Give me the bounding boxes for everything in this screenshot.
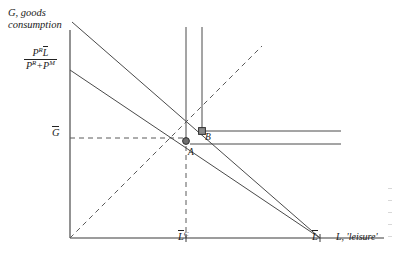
x-axis-tick-label-lc: LC xyxy=(178,231,189,243)
budget-line-outer xyxy=(72,22,320,238)
y-axis-fraction-label: PRL PR+PM xyxy=(24,47,57,72)
gbar-symbol: G xyxy=(52,127,60,139)
lbar-symbol: L xyxy=(312,231,318,243)
data-point-label-b: B xyxy=(205,132,211,143)
fraction: PRL PR+PM xyxy=(24,47,57,72)
diagonal-45-degree-line xyxy=(70,46,262,238)
lc-symbol: L xyxy=(178,231,184,243)
x-axis-tick-label-lbar: L xyxy=(312,231,318,243)
denominator-plus-sign: + xyxy=(36,60,43,71)
numerator-labor-bar: L xyxy=(43,47,49,59)
page-edge-marks xyxy=(383,186,393,244)
denominator-second-superscript: M xyxy=(49,58,55,65)
fraction-denominator: PR+PM xyxy=(24,60,57,72)
lc-superscript: C xyxy=(184,230,189,238)
y-axis-tick-label-gbar: G xyxy=(52,127,60,139)
data-point-a-marker[interactable] xyxy=(183,138,190,145)
y-axis-label: G, goods consumption xyxy=(8,7,62,32)
y-axis-label-line-1: G, goods xyxy=(8,7,46,18)
x-axis-label: L, 'leisure' xyxy=(336,231,378,243)
y-axis-label-line-2: consumption xyxy=(8,19,62,30)
data-point-label-a: A xyxy=(188,147,194,158)
budget-line-inner xyxy=(70,70,320,238)
figure-page: G, goods consumption L, 'leisure' PRL PR… xyxy=(0,0,393,266)
